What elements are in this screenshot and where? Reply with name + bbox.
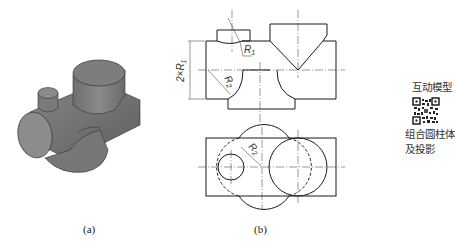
caption-b: (b) <box>254 223 267 235</box>
isometric-view <box>14 60 140 172</box>
svg-text:R2: R2 <box>246 141 262 157</box>
qr-code-icon[interactable] <box>413 98 439 124</box>
front-view-dimensions: 2×R1 R1 R2 <box>175 44 255 89</box>
svg-text:R2: R2 <box>221 74 237 90</box>
qr-subtitle-line1: 组合圆柱体 <box>405 127 455 142</box>
top-view-dimensions: R2 <box>246 141 262 157</box>
front-view <box>188 10 345 122</box>
interactive-model-title: 互动模型 <box>412 80 452 95</box>
caption-a: (a) <box>83 223 95 235</box>
qr-subtitle-line2: 及投影 <box>405 142 435 157</box>
svg-text:2×R1: 2×R1 <box>175 59 187 83</box>
top-view <box>198 125 345 210</box>
svg-text:R1: R1 <box>244 44 255 56</box>
figure-canvas: 2×R1 R1 R2 R2 <box>0 0 455 242</box>
